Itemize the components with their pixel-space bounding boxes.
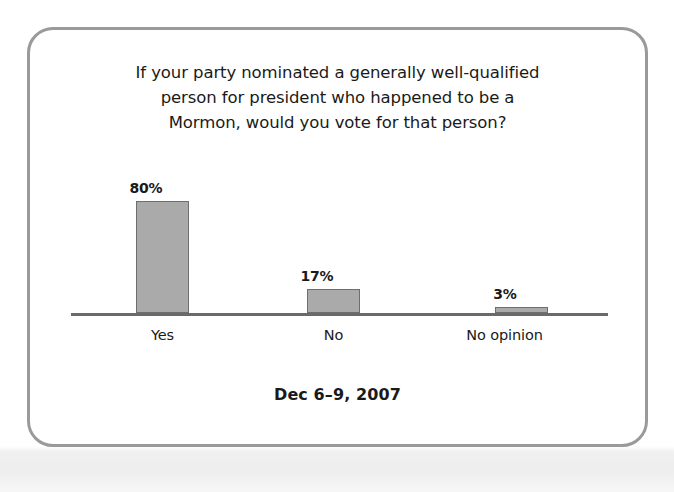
date-caption: Dec 6–9, 2007 xyxy=(30,385,645,404)
bar-no xyxy=(307,289,360,313)
bar-value-label-no: 17% xyxy=(281,268,353,284)
bar-value-label-yes: 80% xyxy=(110,180,182,196)
baseline-axis xyxy=(71,313,608,316)
category-label-no: No xyxy=(281,327,386,343)
chart-card: If your party nominated a generally well… xyxy=(27,27,648,447)
plot-area: 80% Yes 17% No 3% No opinion xyxy=(30,30,645,444)
bar-no-opinion xyxy=(495,307,548,313)
bar-yes xyxy=(136,201,189,313)
category-label-yes: Yes xyxy=(110,327,215,343)
bar-value-label-no-opinion: 3% xyxy=(469,286,541,302)
page-background: If your party nominated a generally well… xyxy=(0,0,674,492)
category-label-no-opinion: No opinion xyxy=(452,327,557,343)
